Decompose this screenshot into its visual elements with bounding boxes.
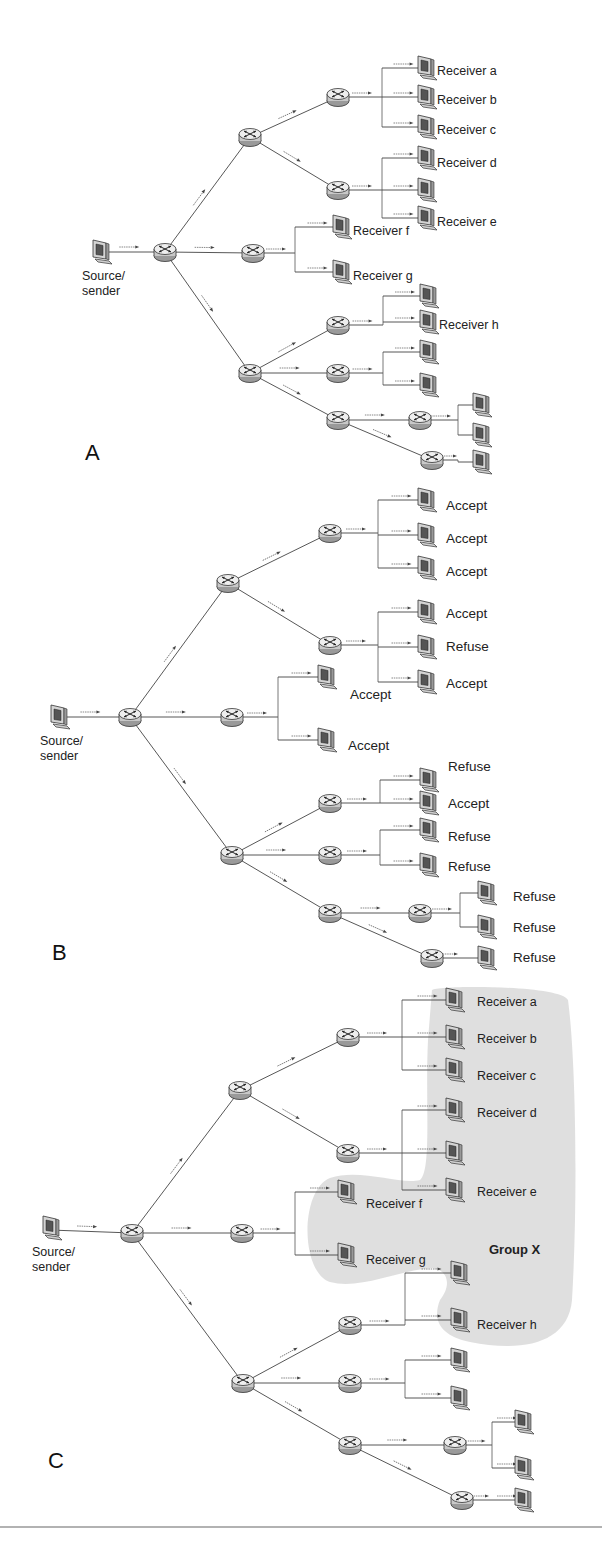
- flow-arrow-icon: [367, 1031, 387, 1034]
- router-icon: [327, 365, 349, 383]
- receiver-status-label: Accept: [446, 676, 488, 691]
- receiver-label: Receiver b: [477, 1032, 537, 1046]
- receiver-status-label: Refuse: [448, 859, 491, 874]
- flow-arrow-icon: [370, 1377, 390, 1380]
- flow-arrow-icon: [387, 1438, 407, 1441]
- receiver-label: Receiver h: [439, 318, 499, 332]
- flow-arrow-icon: [395, 290, 415, 293]
- receiver-computer-icon: [418, 635, 437, 659]
- flow-arrow-icon: [497, 1494, 517, 1497]
- flow-arrow-icon: [262, 550, 281, 562]
- router-icon: [421, 452, 443, 470]
- router-icon: [319, 905, 341, 923]
- router-icon: [242, 245, 264, 263]
- panel-letter-a: A: [85, 440, 100, 465]
- flow-arrow-icon: [163, 645, 177, 663]
- flow-arrow-icon: [119, 245, 139, 248]
- receiver-label: Receiver e: [437, 215, 497, 229]
- flow-arrow-icon: [352, 184, 372, 187]
- network-link: [130, 717, 232, 855]
- flow-arrow-icon: [77, 1224, 97, 1228]
- flow-arrow-icon: [422, 1314, 442, 1317]
- flow-arrow-icon: [497, 1416, 517, 1419]
- flow-arrow-icon: [370, 1319, 390, 1322]
- receiver-status-label: Accept: [446, 531, 488, 546]
- flow-arrow-icon: [392, 676, 412, 679]
- source-computer-icon: [43, 1216, 62, 1240]
- flow-arrow-icon: [394, 774, 414, 777]
- receiver-computer-icon: [420, 310, 439, 334]
- flow-arrow-icon: [392, 494, 412, 497]
- flow-arrow-icon: [365, 413, 385, 416]
- receiver-computer-icon: [420, 373, 439, 397]
- panel-letter-b: B: [52, 940, 67, 965]
- receiver-computer-icon: [418, 56, 437, 80]
- flow-arrow-icon: [395, 379, 415, 382]
- router-icon: [239, 365, 261, 383]
- router-icon: [339, 1375, 361, 1393]
- router-icon: [221, 847, 243, 865]
- network-link: [250, 373, 338, 420]
- receiver-computer-icon: [478, 915, 497, 939]
- receiver-computer-icon: [473, 450, 492, 474]
- network-link: [240, 1090, 348, 1153]
- flow-arrow-icon: [80, 710, 100, 713]
- source-computer-icon: [93, 240, 112, 264]
- receiver-label: Receiver a: [477, 995, 537, 1009]
- source-label: Source/: [82, 269, 126, 283]
- receiver-computer-icon: [420, 791, 439, 815]
- flow-arrow-icon: [347, 849, 367, 852]
- receiver-computer-icon: [420, 284, 439, 308]
- receiver-status-label: Accept: [446, 564, 488, 579]
- receiver-status-label: Accept: [348, 738, 390, 753]
- flow-arrow-icon: [195, 246, 215, 249]
- receiver-computer-icon: [418, 600, 437, 624]
- source-computer-icon: [51, 705, 70, 729]
- flow-arrow-icon: [347, 797, 367, 800]
- receiver-label: Receiver g: [353, 269, 413, 283]
- receiver-computer-icon: [418, 85, 437, 109]
- router-icon: [217, 575, 239, 593]
- flow-arrow-icon: [266, 247, 286, 250]
- receiver-label: Receiver h: [477, 1318, 537, 1332]
- receiver-computer-icon: [418, 488, 437, 512]
- network-link: [130, 583, 228, 717]
- source-label: Source/: [40, 734, 84, 748]
- source-label: sender: [32, 1260, 70, 1274]
- receiver-label: Receiver e: [477, 1185, 537, 1199]
- receiver-computer-icon: [333, 215, 352, 239]
- receiver-status-label: Refuse: [513, 950, 556, 965]
- receiver-computer-icon: [333, 260, 352, 284]
- receiver-computer-icon: [420, 768, 439, 792]
- receiver-computer-icon: [420, 340, 439, 364]
- flow-arrow-icon: [179, 1289, 193, 1307]
- receiver-label: Receiver d: [437, 156, 497, 170]
- flow-arrow-icon: [266, 848, 286, 851]
- receiver-label: Receiver g: [366, 1253, 426, 1267]
- source-label: sender: [40, 749, 78, 763]
- flow-arrow-icon: [394, 152, 414, 155]
- router-icon: [451, 1492, 473, 1510]
- receiver-label: Receiver c: [437, 123, 496, 137]
- flow-arrow-icon: [394, 62, 414, 65]
- router-icon: [337, 1145, 359, 1163]
- receiver-status-label: Refuse: [513, 889, 556, 904]
- network-link: [132, 1233, 243, 1383]
- router-icon: [337, 1029, 359, 1047]
- flow-arrow-icon: [308, 266, 328, 269]
- receiver-computer-icon: [473, 423, 492, 447]
- network-link: [165, 252, 250, 373]
- router-icon: [154, 244, 176, 262]
- router-icon: [119, 709, 141, 727]
- flow-arrow-icon: [418, 1031, 438, 1034]
- source-label: Source/: [32, 1245, 76, 1259]
- flow-arrow-icon: [282, 384, 301, 396]
- flow-arrow-icon: [394, 859, 414, 862]
- flow-arrow-icon: [394, 121, 414, 124]
- flow-arrow-icon: [200, 294, 214, 312]
- flow-arrow-icon: [281, 1376, 301, 1379]
- flow-arrow-icon: [394, 212, 414, 215]
- receiver-label: Receiver f: [353, 224, 410, 238]
- multicast-figure: Source/senderReceiver aReceiver bReceive…: [0, 0, 602, 1567]
- flow-arrow-icon: [280, 366, 300, 369]
